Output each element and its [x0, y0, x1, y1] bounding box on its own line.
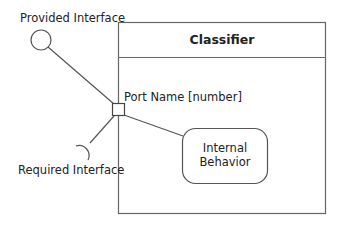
- required-interface-label: Required Interface: [18, 165, 124, 177]
- internal-behavior-line2: Behavior: [182, 157, 268, 169]
- port-icon[interactable]: [113, 104, 125, 116]
- classifier-name: Classifier: [118, 34, 326, 47]
- internal-behavior-line1: Internal: [182, 143, 268, 155]
- required-interface-connector: [90, 116, 114, 143]
- provided-interface-label: Provided Interface: [20, 13, 125, 25]
- behavior-connector: [124, 115, 183, 136]
- required-interface-icon[interactable]: [76, 146, 89, 160]
- provided-interface-connector: [48, 47, 114, 104]
- classifier-box[interactable]: [119, 23, 326, 214]
- port-label: Port Name [number]: [124, 92, 242, 104]
